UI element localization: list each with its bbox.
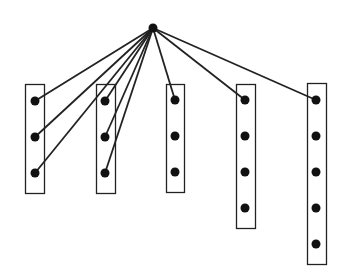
- edge-1-3: [35, 28, 153, 173]
- node-4-3: [241, 168, 250, 177]
- hub-node: [149, 24, 158, 33]
- edge-2-2: [105, 28, 153, 137]
- hub-group-diagram: [0, 0, 340, 278]
- node-3-3: [171, 168, 180, 177]
- node-2-1: [101, 97, 110, 106]
- node-4-1: [241, 96, 250, 105]
- node-2-2: [101, 133, 110, 142]
- node-5-4: [312, 204, 321, 213]
- node-5-2: [312, 132, 321, 141]
- edge-1-1: [35, 28, 153, 101]
- node-5-1: [312, 96, 321, 105]
- node-1-3: [31, 169, 40, 178]
- node-4-2: [241, 132, 250, 141]
- edge-3-1: [153, 28, 175, 100]
- node-4-4: [241, 204, 250, 213]
- node-5-5: [312, 240, 321, 249]
- node-5-3: [312, 168, 321, 177]
- node-3-1: [171, 96, 180, 105]
- node-1-2: [31, 133, 40, 142]
- node-1-1: [31, 97, 40, 106]
- edge-5-1: [153, 28, 316, 100]
- node-3-2: [171, 132, 180, 141]
- node-2-3: [101, 169, 110, 178]
